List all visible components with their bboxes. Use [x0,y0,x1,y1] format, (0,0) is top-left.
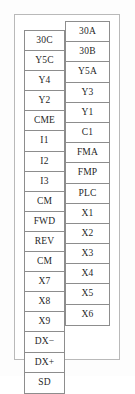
terminal-fwd: FWD [25,212,64,232]
terminal-cm: CM [25,252,64,272]
terminal-x2: X2 [66,224,109,244]
terminal-y5a: Y5A [66,62,109,82]
terminal-dx-: DX+ [25,353,64,373]
terminal-x6: X6 [66,305,109,325]
terminal-fma: FMA [66,143,109,163]
terminal-dx-: DX− [25,332,64,352]
terminal-y2: Y2 [25,91,64,111]
terminal-cm: CM [25,192,64,212]
terminal-plc: PLC [66,184,109,204]
terminal-x9: X9 [25,312,64,332]
terminal-y3: Y3 [66,83,109,103]
terminal-i3: I3 [25,172,64,192]
terminal-x5: X5 [66,284,109,304]
terminal-x1: X1 [66,204,109,224]
terminal-30b: 30B [66,42,109,62]
terminal-fmp: FMP [66,163,109,183]
terminal-x8: X8 [25,292,64,312]
terminal-i2: I2 [25,152,64,172]
left-terminal-column: 30CY5CY4Y2CMEI1I2I3CMFWDREVCMX7X8X9DX−DX… [24,30,65,394]
terminal-i1: I1 [25,131,64,151]
terminal-rev: REV [25,232,64,252]
terminal-y4: Y4 [25,71,64,91]
terminal-30c: 30C [25,31,64,51]
terminal-y1: Y1 [66,103,109,123]
terminal-c1: C1 [66,123,109,143]
terminal-30a: 30A [66,22,109,42]
terminal-sd: SD [25,373,64,393]
terminal-cme: CME [25,111,64,131]
terminal-x4: X4 [66,264,109,284]
terminal-y5c: Y5C [25,51,64,71]
right-terminal-column: 30A30BY5AY3Y1C1FMAFMPPLCX1X2X3X4X5X6 [65,21,110,326]
terminal-x3: X3 [66,244,109,264]
terminal-x7: X7 [25,272,64,292]
